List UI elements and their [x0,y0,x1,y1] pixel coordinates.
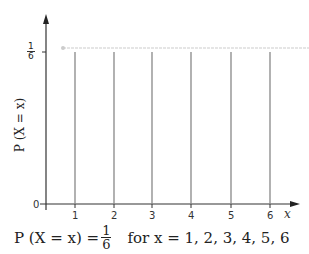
formula-caption: P (X = x) = 1 6 for x = 1, 2, 3, 4, 5, 6 [14,224,289,251]
x-tick-label-2: 2 [111,210,117,221]
y-tick-zero: 0 [33,199,39,210]
formula-lhs: P (X = x) = [14,229,99,247]
formula-fraction: 1 6 [101,224,111,251]
x-tick-label-1: 1 [72,210,78,221]
x-tick-label-4: 4 [188,210,194,221]
formula-rhs: for x = 1, 2, 3, 4, 5, 6 [127,229,289,247]
y-axis-arrow-icon [43,14,49,24]
x-axis-arrow-icon [290,201,300,207]
chart-canvas: 123456 0 x [0,0,309,254]
x-axis-label: x [284,207,291,221]
y-axis-label: P (X = x) [13,85,27,165]
bars-group [75,52,270,204]
x-ticks-group: 123456 [72,204,273,221]
x-tick-label-3: 3 [149,210,155,221]
x-tick-label-5: 5 [228,210,234,221]
x-tick-label-6: 6 [267,210,273,221]
y-tick-sixth-label: 1 6 [27,42,35,61]
